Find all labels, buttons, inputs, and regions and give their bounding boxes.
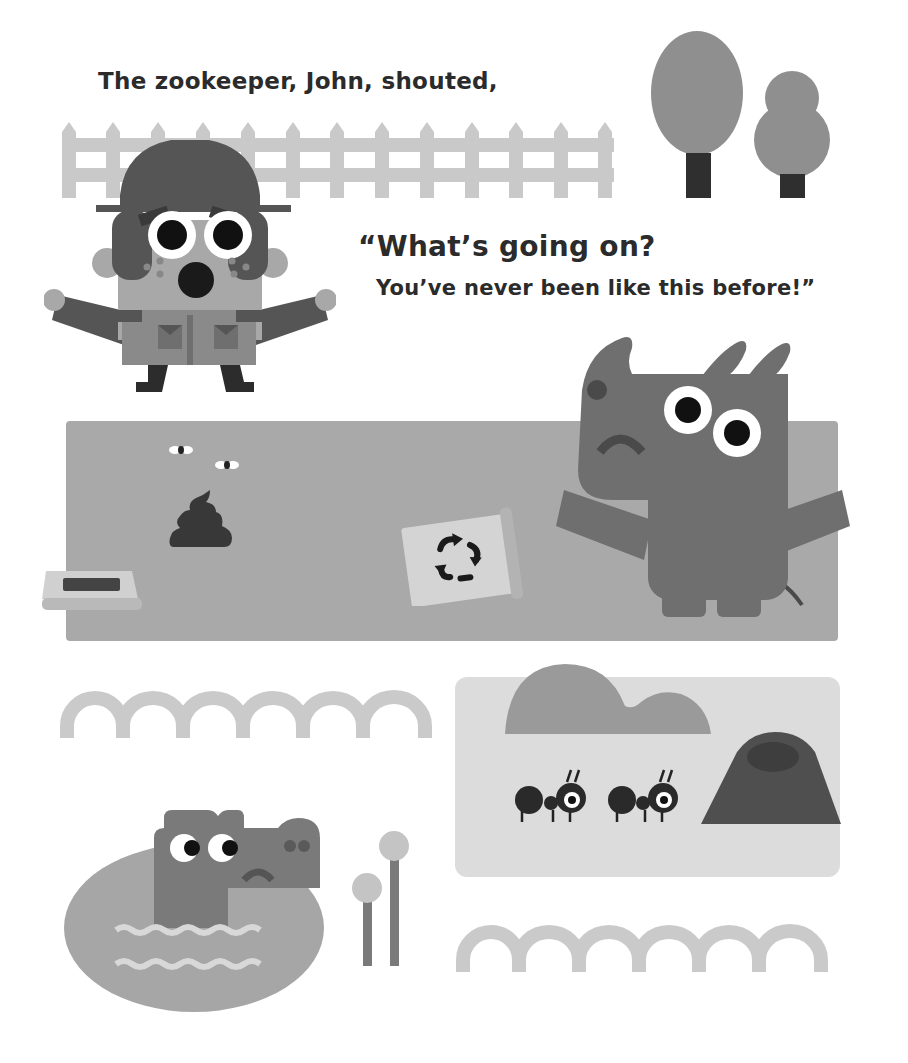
- recycle-cup: [395, 500, 531, 606]
- fly-icon: [169, 446, 193, 454]
- rhino-horn: [748, 343, 790, 376]
- round-tree: [754, 71, 830, 198]
- fly-icon: [215, 461, 239, 469]
- food-tray: [42, 567, 142, 613]
- arch-fence-left: [60, 690, 435, 740]
- anthill: [701, 732, 841, 824]
- narration-text: The zookeeper, John, shouted,: [98, 68, 498, 94]
- ant: [515, 770, 586, 822]
- crocodile-pond: [58, 808, 338, 1013]
- rhino: [552, 330, 854, 620]
- reeds: [350, 828, 414, 968]
- ranger-hat: [120, 140, 260, 210]
- poop-with-flies: [168, 440, 243, 550]
- trees-illustration: [650, 28, 840, 203]
- dialog-line-2: You’ve never been like this before!”: [376, 276, 815, 300]
- bush: [505, 664, 711, 734]
- ant: [608, 770, 678, 822]
- zookeeper-john: [44, 140, 336, 398]
- arch-fence-right: [456, 920, 831, 975]
- zookeeper-mouth: [178, 262, 214, 298]
- poop-icon: [170, 490, 233, 547]
- zookeeper-boots: [136, 365, 254, 392]
- tall-tree: [651, 31, 743, 198]
- dialog-line-1: “What’s going on?: [358, 230, 656, 263]
- ant-scene: [455, 660, 845, 875]
- rhino-horn: [702, 341, 746, 376]
